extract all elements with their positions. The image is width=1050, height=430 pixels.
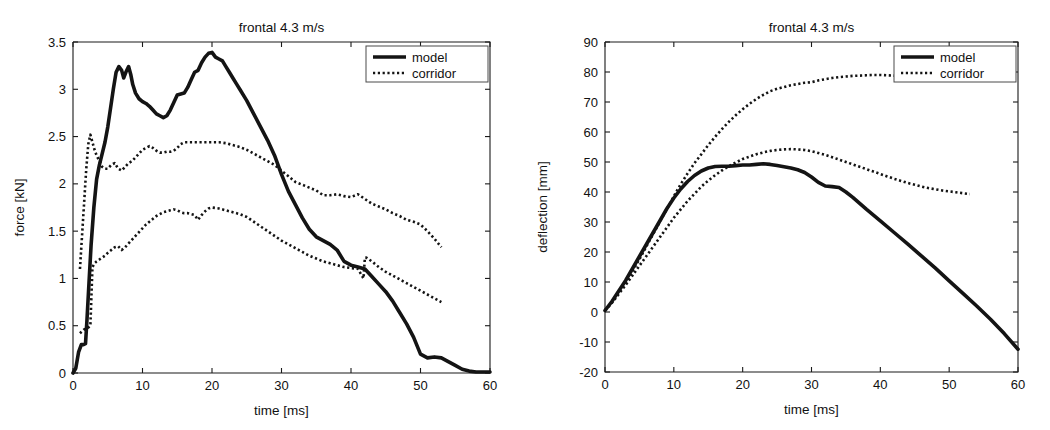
- y-tick-label: -10: [579, 335, 598, 350]
- series-corridor_lower: [605, 149, 970, 310]
- y-tick-label: 2: [59, 176, 66, 191]
- legend-label-model: model: [412, 50, 448, 65]
- y-tick-label: 80: [584, 65, 598, 80]
- x-tick-label: 0: [601, 377, 608, 392]
- x-tick-label: 60: [483, 378, 497, 393]
- y-tick-label: 2.5: [48, 129, 66, 144]
- y-tick-label: 1.5: [48, 224, 66, 239]
- x-tick-label: 30: [274, 378, 288, 393]
- series-model: [73, 52, 490, 373]
- deflection-plot-svg: frontal 4.3 m/s0102030405060-20-10010203…: [525, 0, 1050, 430]
- x-tick-label: 30: [804, 377, 818, 392]
- legend-label-model: model: [940, 50, 976, 65]
- y-tick-label: 0: [591, 305, 598, 320]
- y-tick-label: 1: [59, 271, 66, 286]
- x-axis-title: time [ms]: [784, 402, 839, 417]
- chart-panel-deflection: frontal 4.3 m/s0102030405060-20-10010203…: [525, 0, 1050, 430]
- series-corridor_upper: [605, 75, 908, 311]
- y-tick-label: 40: [584, 185, 598, 200]
- plot-title: frontal 4.3 m/s: [239, 20, 325, 35]
- legend-label-corridor: corridor: [940, 66, 985, 81]
- x-tick-label: 20: [735, 377, 749, 392]
- figure-container: frontal 4.3 m/s010203040506000.511.522.5…: [0, 0, 1050, 430]
- x-tick-label: 20: [205, 378, 219, 393]
- y-tick-label: 3.5: [48, 35, 66, 50]
- y-tick-label: 20: [584, 245, 598, 260]
- y-tick-label: 70: [584, 95, 598, 110]
- force-plot-svg: frontal 4.3 m/s010203040506000.511.522.5…: [0, 0, 525, 430]
- series-corridor_lower: [80, 208, 441, 334]
- y-tick-label: 3: [59, 82, 66, 97]
- x-tick-label: 50: [942, 377, 956, 392]
- x-tick-label: 10: [135, 378, 149, 393]
- legend-label-corridor: corridor: [412, 66, 457, 81]
- y-axis-title: deflection [mm]: [535, 161, 550, 253]
- plot-title: frontal 4.3 m/s: [769, 20, 855, 35]
- x-tick-label: 50: [413, 378, 427, 393]
- chart-panel-force: frontal 4.3 m/s010203040506000.511.522.5…: [0, 0, 525, 430]
- y-tick-label: 50: [584, 155, 598, 170]
- series-corridor_upper: [80, 135, 441, 269]
- y-tick-label: 10: [584, 275, 598, 290]
- x-tick-label: 40: [873, 377, 887, 392]
- x-tick-label: 0: [69, 378, 76, 393]
- x-tick-label: 10: [667, 377, 681, 392]
- x-axis-title: time [ms]: [254, 403, 309, 418]
- y-tick-label: 0.5: [48, 318, 66, 333]
- y-tick-label: -20: [579, 365, 598, 380]
- x-tick-label: 40: [344, 378, 358, 393]
- y-tick-label: 90: [584, 35, 598, 50]
- y-tick-label: 60: [584, 125, 598, 140]
- y-tick-label: 30: [584, 215, 598, 230]
- x-tick-label: 60: [1011, 377, 1025, 392]
- y-axis-title: force [kN]: [12, 179, 27, 237]
- y-tick-label: 0: [59, 366, 66, 381]
